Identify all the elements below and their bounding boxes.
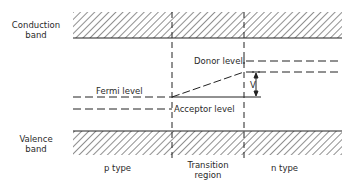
- p-type-label: p type: [104, 163, 131, 173]
- conduction-band-label: Conduction band: [6, 20, 66, 40]
- valence-band-label-line2: band: [6, 144, 66, 154]
- fermi-transition-slope: [172, 72, 244, 97]
- n-type-label: n type: [271, 163, 298, 173]
- acceptor-level-label: Acceptor level: [174, 104, 235, 114]
- valence-band-label-line1: Valence: [6, 134, 66, 144]
- donor-level-label: Donor level: [194, 56, 243, 66]
- transition-region-label-line2: region: [172, 170, 244, 180]
- valence-band: [73, 131, 342, 155]
- conduction-band: [73, 12, 342, 38]
- voltage-label: V: [250, 80, 256, 90]
- fermi-level-label: Fermi level: [96, 86, 143, 96]
- transition-region-label: Transition region: [172, 160, 244, 180]
- conduction-band-label-line1: Conduction: [6, 20, 66, 30]
- transition-region-label-line1: Transition: [172, 160, 244, 170]
- valence-band-label: Valence band: [6, 134, 66, 154]
- conduction-band-label-line2: band: [6, 30, 66, 40]
